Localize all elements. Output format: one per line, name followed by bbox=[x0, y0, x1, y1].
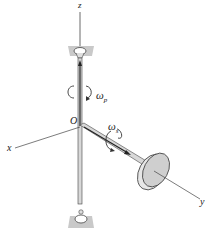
omega-symbol: ω bbox=[96, 89, 104, 101]
x-axis-label: x bbox=[7, 143, 11, 153]
gyroscope-diagram bbox=[0, 0, 214, 234]
precession-label: ωp bbox=[96, 90, 107, 104]
y-axis bbox=[154, 171, 200, 199]
precession-subscript: p bbox=[104, 96, 108, 104]
bottom-bearing bbox=[75, 215, 87, 223]
x-axis bbox=[15, 127, 80, 148]
spin-subscript: s bbox=[116, 127, 119, 135]
omega-symbol: ω bbox=[108, 120, 116, 132]
y-axis-label: y bbox=[200, 197, 204, 207]
origin-label: O bbox=[70, 116, 77, 126]
z-axis-label: z bbox=[78, 1, 82, 10]
spin-label: ωs bbox=[108, 121, 119, 135]
